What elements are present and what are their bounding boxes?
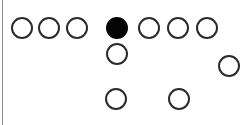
circle-node-r2c2[interactable] (218, 55, 240, 77)
left-vertical-rule (2, 0, 3, 125)
circle-node-r2c1[interactable] (106, 43, 128, 65)
circle-node-r1c6[interactable] (167, 17, 189, 39)
circle-node-r1c5[interactable] (138, 17, 160, 39)
circle-node-r1c7[interactable] (196, 17, 218, 39)
circle-node-r3c2[interactable] (168, 88, 190, 110)
circle-node-r1c3[interactable] (66, 17, 88, 39)
circle-node-r3c1[interactable] (105, 88, 127, 110)
circle-node-r1c2[interactable] (38, 17, 60, 39)
circle-diagram-canvas (0, 0, 250, 125)
circle-node-r1c1[interactable] (11, 17, 33, 39)
circle-node-r1c4[interactable] (106, 17, 128, 39)
